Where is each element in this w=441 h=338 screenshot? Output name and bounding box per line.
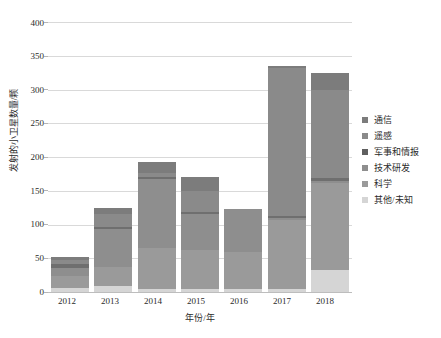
gridline: [48, 22, 352, 23]
bar-2012: [51, 257, 89, 292]
legend-label: 其他/未知: [374, 196, 413, 205]
bar-segment: [224, 209, 262, 252]
bar-segment: [94, 208, 132, 215]
bar-segment: [138, 248, 176, 289]
legend-item-4[interactable]: 科学: [362, 176, 440, 192]
bar-segment: [51, 288, 89, 292]
bar-segment: [94, 229, 132, 267]
legend-label: 科学: [374, 180, 392, 189]
bar-segment: [224, 252, 262, 290]
bar-2015: [181, 177, 219, 292]
bar-2014: [138, 162, 176, 292]
plot-area: [48, 22, 352, 292]
legend-swatch-icon: [362, 133, 368, 139]
bar-segment: [268, 220, 306, 290]
x-axis-title: 年份/年: [48, 314, 352, 323]
bar-segment: [138, 162, 176, 172]
bar-segment: [138, 289, 176, 292]
bar-segment: [268, 289, 306, 292]
bar-segment: [311, 270, 349, 292]
bar-segment: [138, 179, 176, 249]
gridline: [48, 90, 352, 91]
bar-segment: [51, 268, 89, 276]
gridline: [48, 157, 352, 158]
legend-swatch-icon: [362, 181, 368, 187]
legend-item-1[interactable]: 遥感: [362, 128, 440, 144]
legend-item-0[interactable]: 通信: [362, 112, 440, 128]
legend-label: 军事和情报: [374, 148, 419, 157]
gridline: [48, 123, 352, 124]
y-tick-label: 100: [8, 220, 44, 229]
bar-segment: [51, 276, 89, 288]
bar-segment: [181, 250, 219, 288]
bar-2016: [224, 209, 262, 292]
bar-segment: [311, 183, 349, 269]
legend-swatch-icon: [362, 117, 368, 123]
legend-item-3[interactable]: 技术研发: [362, 160, 440, 176]
bar-segment: [94, 214, 132, 226]
bar-2013: [94, 208, 132, 292]
x-axis-line: [48, 292, 352, 293]
bar-2018: [311, 73, 349, 292]
legend-label: 通信: [374, 116, 392, 125]
legend-item-5[interactable]: 其他/未知: [362, 192, 440, 208]
chart-container: 400 350 300 250 200 150 100 50 0 2012 20…: [0, 0, 441, 338]
bar-segment: [94, 286, 132, 292]
bar-segment: [181, 289, 219, 292]
legend-item-2[interactable]: 军事和情报: [362, 144, 440, 160]
bar-segment: [94, 267, 132, 286]
legend-swatch-icon: [362, 165, 368, 171]
legend-label: 技术研发: [374, 164, 410, 173]
bar-segment: [311, 73, 349, 91]
y-tick-label: 0: [8, 288, 44, 297]
bar-segment: [311, 90, 349, 178]
legend-label: 遥感: [374, 132, 392, 141]
y-tick-label: 400: [8, 19, 44, 28]
bar-segment: [181, 214, 219, 250]
x-tick-label-2018: 2018: [299, 297, 351, 306]
bar-segment: [268, 68, 306, 216]
bar-segment: [181, 191, 219, 211]
y-axis-title: 发射的小卫星数量/颗: [10, 71, 19, 191]
legend-swatch-icon: [362, 197, 368, 203]
legend: 通信遥感军事和情报技术研发科学其他/未知: [362, 112, 440, 208]
y-tick-label: 350: [8, 52, 44, 61]
gridline: [48, 56, 352, 57]
bar-segment: [181, 177, 219, 191]
y-tick-label: 50: [8, 254, 44, 263]
bar-2017: [268, 66, 306, 292]
legend-swatch-icon: [362, 149, 368, 155]
bar-segment: [224, 289, 262, 292]
